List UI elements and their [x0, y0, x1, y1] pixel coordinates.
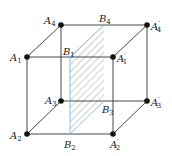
vertex-A3p [144, 98, 150, 104]
label-A3p: A′3 [150, 96, 161, 110]
label-B4: B4 [98, 13, 111, 26]
cube-diagram: A1 A2 A3 A4 A′1 A′2 A′3 A′4 B1 B2 B3 B4 [0, 0, 172, 156]
label-A4p: A′4 [150, 20, 162, 34]
vertex-A2 [24, 131, 30, 137]
vertex-A1 [24, 54, 30, 60]
label-A2: A2 [9, 130, 22, 143]
label-A3: A3 [44, 95, 57, 108]
edge-A2p-A3p [113, 101, 147, 134]
vertex-A4 [58, 22, 64, 28]
label-A4: A4 [43, 15, 56, 28]
label-B3: B3 [101, 104, 114, 117]
section-plane [60, 20, 110, 140]
label-A1p: A′1 [116, 52, 127, 66]
label-A1: A1 [9, 52, 22, 65]
vertex-A1p [110, 54, 116, 60]
edge-A1-A4 [27, 25, 61, 57]
label-B2: B2 [63, 139, 76, 152]
vertex-A2p [110, 131, 116, 137]
vertex-A4p [144, 22, 150, 28]
label-A2p: A′2 [109, 138, 120, 152]
vertex-A3 [58, 98, 64, 104]
